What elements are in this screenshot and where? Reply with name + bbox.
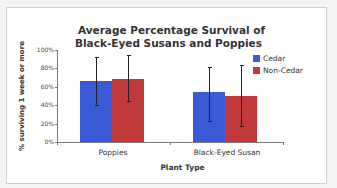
- category-label-poppies: Poppies: [68, 148, 158, 157]
- category-label-black-eyed-susan: Black-Eyed Susan: [182, 148, 272, 157]
- legend: Cedar Non-Cedar: [253, 52, 303, 76]
- error-bar-cap: [208, 67, 212, 68]
- error-bar-cap: [127, 101, 131, 102]
- chart-title-line-1: Average Percentage Survival of: [0, 24, 337, 37]
- y-tick-label: 40%: [24, 101, 54, 108]
- legend-swatch-cedar: [253, 55, 260, 62]
- error-bar: [96, 57, 97, 105]
- x-tick-mark: [57, 142, 58, 145]
- error-bar-cap: [95, 105, 99, 106]
- y-axis: [57, 50, 58, 142]
- error-bar: [128, 55, 129, 101]
- error-bar-cap: [208, 121, 212, 122]
- error-bar: [209, 67, 210, 120]
- error-bar-cap: [240, 65, 244, 66]
- legend-swatch-non-cedar: [253, 67, 260, 74]
- legend-item-non-cedar: Non-Cedar: [253, 64, 303, 76]
- legend-label-non-cedar: Non-Cedar: [263, 66, 303, 75]
- x-tick-mark: [283, 142, 284, 145]
- x-tick-mark: [170, 142, 171, 145]
- y-tick-label: 80%: [24, 64, 54, 71]
- error-bar: [241, 65, 242, 127]
- y-tick-label: 60%: [24, 83, 54, 90]
- y-tick-label: 100%: [24, 46, 54, 53]
- error-bar-cap: [127, 55, 131, 56]
- error-bar-cap: [95, 57, 99, 58]
- legend-item-cedar: Cedar: [253, 52, 303, 64]
- legend-label-cedar: Cedar: [263, 54, 285, 63]
- y-tick-label: 20%: [24, 120, 54, 127]
- x-axis-label: Plant Type: [0, 163, 337, 172]
- y-tick-label: 0%: [24, 138, 54, 145]
- error-bar-cap: [240, 126, 244, 127]
